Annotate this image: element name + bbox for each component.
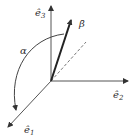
e3-label: ê3	[35, 7, 46, 20]
e2-label: ê2	[113, 89, 124, 102]
alpha-label: α	[20, 45, 27, 56]
coordinate-diagram: ê3 ê2 ê1 β̄ α	[0, 0, 134, 139]
projection-dashed-line	[51, 42, 86, 81]
beta-label: β̄	[78, 18, 85, 29]
e1-label: ê1	[24, 124, 34, 137]
beta-vector	[51, 20, 71, 81]
